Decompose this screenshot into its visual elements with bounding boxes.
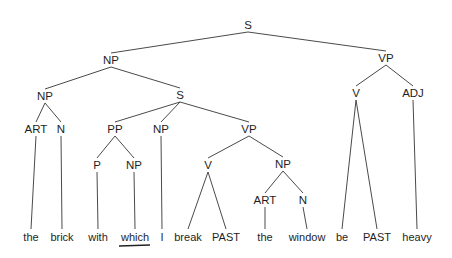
leaf-edge [31, 136, 36, 229]
tree-node-labels: SNPVPNPSVADJARTNPPNPVPPNPVNPARTN [25, 19, 424, 206]
tree-edge [45, 67, 111, 89]
leaf-word: the [23, 231, 38, 243]
leaf-word: I [160, 231, 163, 243]
tree-edge [265, 171, 283, 193]
leaf-edge [61, 136, 62, 229]
tree-edge [208, 136, 249, 158]
tree-edge [115, 136, 134, 158]
node-v: V [352, 87, 360, 99]
tree-edge [283, 171, 303, 193]
leaf-word: brick [50, 231, 74, 243]
tree-edge [356, 65, 386, 86]
node-vp: VP [378, 52, 394, 64]
leaf-edge [161, 136, 162, 229]
node-np: NP [153, 123, 169, 135]
leaf-edge [303, 207, 307, 229]
node-np: NP [275, 158, 291, 170]
node-n: N [57, 123, 65, 135]
word-underline [119, 245, 150, 246]
leaf-word: the [257, 231, 272, 243]
tree-edge [97, 136, 115, 158]
syntax-tree-diagram: SNPVPNPSVADJARTNPPNPVPPNPVNPARTN thebric… [0, 0, 452, 258]
leaf-edge [188, 172, 208, 229]
tree-edge [36, 103, 45, 122]
leaf-edge [413, 100, 417, 229]
tree-edge [386, 65, 413, 86]
leaf-word: break [174, 231, 202, 243]
tree-edge [180, 102, 249, 122]
leaf-edge [356, 100, 377, 229]
tree-leaf-words: thebrickwithwhichIbreakPASTthewindowbePA… [23, 231, 432, 246]
tree-edge [45, 103, 61, 122]
node-n: N [299, 194, 307, 206]
tree-edge [111, 67, 180, 88]
leaf-word: PAST [363, 231, 391, 243]
tree-edge [248, 32, 386, 51]
leaf-word: with [87, 231, 108, 243]
node-art: ART [25, 123, 48, 135]
leaf-word: be [336, 231, 348, 243]
node-adj: ADJ [402, 87, 424, 99]
node-v: V [204, 159, 212, 171]
node-s: S [176, 89, 184, 101]
leaf-word: window [288, 231, 326, 243]
leaf-edge [342, 100, 356, 229]
leaf-edge [97, 172, 98, 229]
node-vp: VP [241, 123, 257, 135]
tree-edge [111, 32, 248, 53]
leaf-word: PAST [212, 231, 240, 243]
leaf-word: heavy [402, 231, 432, 243]
node-s: S [244, 19, 252, 31]
tree-edge [249, 136, 283, 157]
node-p: P [93, 159, 101, 171]
leaf-word: which [120, 231, 149, 243]
leaf-edge [208, 172, 226, 229]
node-np: NP [126, 159, 142, 171]
leaf-edge [134, 172, 135, 229]
node-pp: PP [107, 123, 123, 135]
node-np: NP [37, 90, 53, 102]
tree-edges [31, 32, 417, 229]
node-np: NP [103, 54, 119, 66]
node-art: ART [254, 194, 277, 206]
